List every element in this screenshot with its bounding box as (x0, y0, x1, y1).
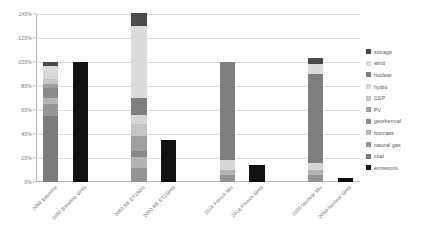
legend-label: geothermal (374, 118, 401, 124)
y-tick-label: 0% (24, 179, 36, 185)
legend-swatch-icon (366, 72, 371, 77)
legend-swatch-icon (366, 165, 371, 170)
y-tick-label: 60% (21, 107, 36, 113)
bar-segment (220, 175, 235, 182)
bar-segment (43, 88, 58, 98)
legend-item: CSP (366, 92, 435, 104)
x-tick-label: 2050 RE ET180% (113, 184, 147, 218)
bar-segment (131, 98, 146, 115)
y-tick-label: 80% (21, 83, 36, 89)
legend-item: natural gas (366, 139, 435, 151)
legend-item: coal (366, 150, 435, 162)
bar-segment (131, 26, 146, 98)
bar-segment (131, 124, 146, 136)
legend-label: CSP (374, 95, 385, 101)
y-tick-label: 120% (18, 35, 36, 41)
legend-item: PV (366, 104, 435, 116)
legend-swatch-icon (366, 142, 371, 147)
bar (249, 165, 264, 182)
bar (220, 62, 235, 182)
legend-swatch-icon (366, 119, 371, 124)
bar (161, 140, 176, 182)
bar-segment (220, 160, 235, 170)
legend-item: emissions (366, 162, 435, 174)
legend-label: biomass (374, 130, 394, 136)
y-tick-label: 40% (21, 131, 36, 137)
bar-chart: 0%20%40%60%80%100%120%140% 2050 Baseline… (0, 0, 435, 229)
bar-segment (308, 74, 323, 163)
bar-segment (220, 62, 235, 160)
bar (338, 178, 353, 182)
x-axis-labels: 2050 Baseline2050 Baseline GHG2050 RE ET… (36, 184, 360, 229)
bar (131, 13, 146, 182)
legend-label: emissions (374, 165, 398, 171)
bar-segment (131, 136, 146, 150)
bar-segment (338, 178, 353, 182)
x-tick-label: 2018 French GHG (230, 184, 264, 218)
legend-item: geothermal (366, 116, 435, 128)
plot-area: 0%20%40%60%80%100%120%140% (36, 14, 360, 182)
legend-swatch-icon (366, 96, 371, 101)
legend-item: hydro (366, 81, 435, 93)
y-tick-label: 140% (18, 11, 36, 17)
x-tick-label: 2018 French Mix (203, 184, 235, 216)
legend-label: wind (374, 60, 385, 66)
bar-segment (308, 64, 323, 74)
legend-label: PV (374, 107, 381, 113)
legend-item: storage (366, 46, 435, 58)
legend-label: coal (374, 153, 384, 159)
bar-segment (73, 62, 88, 182)
bar-segment (131, 168, 146, 182)
bar (308, 58, 323, 182)
legend-label: natural gas (374, 142, 401, 148)
legend-swatch-icon (366, 154, 371, 159)
legend-label: storage (374, 49, 392, 55)
legend-swatch-icon (366, 61, 371, 66)
y-tick-label: 100% (18, 59, 36, 65)
legend-item: nuclear (366, 69, 435, 81)
bar-segment (308, 175, 323, 182)
bar (73, 62, 88, 182)
bar (43, 62, 58, 182)
legend-item: wind (366, 58, 435, 70)
legend-swatch-icon (366, 49, 371, 54)
legend-swatch-icon (366, 107, 371, 112)
x-tick-label: 2050 Nuclear GHG (317, 184, 352, 219)
chart-legend: storagewindnuclearhydroCSPPVgeothermalbi… (366, 46, 435, 174)
x-tick-label: 2050 RE ET1GHG (141, 184, 176, 219)
legend-swatch-icon (366, 84, 371, 89)
bar-segment (43, 72, 58, 79)
bar-segment (131, 157, 146, 168)
legend-item: biomass (366, 127, 435, 139)
bar-segment (131, 115, 146, 125)
bar-segment (249, 165, 264, 182)
legend-label: nuclear (374, 72, 392, 78)
legend-swatch-icon (366, 130, 371, 135)
bar-series-container (36, 14, 360, 182)
y-tick-label: 20% (21, 155, 36, 161)
bar-segment (161, 140, 176, 182)
legend-label: hydro (374, 84, 387, 90)
x-tick-label: 2050 Baseline (30, 184, 58, 212)
bar-segment (131, 13, 146, 26)
bar-segment (43, 116, 58, 182)
bar-segment (308, 163, 323, 170)
bar-segment (43, 104, 58, 116)
